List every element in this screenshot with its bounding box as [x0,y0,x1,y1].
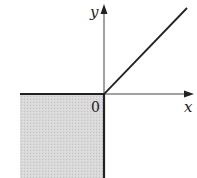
x-axis-label: x [184,98,193,116]
y-axis-label: y [89,3,99,21]
ray-y-equals-x [104,8,187,94]
y-axis-arrow-icon [101,4,108,14]
diagram-canvas: y x 0 [0,0,197,178]
origin-label: 0 [91,99,100,115]
x-axis-arrow-icon [184,91,194,98]
